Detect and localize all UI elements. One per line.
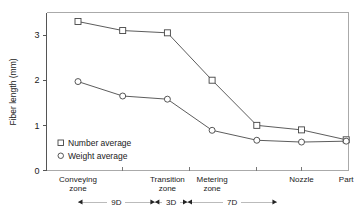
legend-entry-label: Number average [68, 138, 132, 148]
data-point-square [299, 127, 305, 133]
data-point-circle [209, 127, 215, 133]
legend-entry-label: Weight average [68, 151, 128, 161]
x-category-label: zone [69, 184, 87, 193]
span-arrow-head [150, 199, 155, 204]
legend-marker-square [58, 140, 64, 146]
span-arrow-head [183, 199, 188, 204]
span-label: 7D [227, 198, 237, 207]
x-axis-category-labels: ConveyingzoneTransitionzoneMeteringzoneN… [59, 175, 354, 193]
span-arrow-head [272, 199, 277, 204]
series-number-average [75, 19, 349, 143]
data-point-circle [343, 138, 349, 144]
data-point-circle [299, 139, 305, 145]
x-category-label: Nozzle [289, 175, 314, 184]
span-label: 3D [166, 198, 176, 207]
data-point-square [75, 19, 81, 25]
x-axis-ticks [123, 167, 302, 171]
data-point-circle [75, 79, 81, 85]
data-point-square [164, 30, 170, 36]
x-category-label: Part [339, 175, 354, 184]
y-tick-label: 0 [34, 166, 39, 176]
series-weight-average [75, 79, 349, 145]
y-tick-label: 2 [34, 75, 39, 85]
x-category-label: Metering [197, 175, 228, 184]
span-arrow-head [188, 199, 193, 204]
fiber-length-line-chart: 0123 Fiber length (mm) Number averageWei… [0, 0, 362, 215]
data-point-circle [120, 93, 126, 99]
span-label: 9D [111, 198, 121, 207]
zone-span-annotations: 9D3D7D [78, 198, 277, 207]
legend-marker-circle [58, 153, 64, 159]
data-point-square [209, 77, 215, 83]
span-arrow-head [155, 199, 160, 204]
y-axis-title: Fiber length (mm) [8, 58, 18, 125]
data-point-circle [164, 96, 170, 102]
x-category-label: Transition [150, 175, 185, 184]
y-axis-ticks: 0123 [34, 30, 46, 175]
chart-figure: 0123 Fiber length (mm) Number averageWei… [0, 0, 362, 215]
x-category-label: zone [159, 184, 177, 193]
data-point-square [254, 122, 260, 128]
y-axis: 0123 [34, 13, 46, 176]
span-arrow-head [78, 199, 83, 204]
x-category-label: Conveying [59, 175, 97, 184]
x-category-label: zone [203, 184, 221, 193]
chart-legend: Number averageWeight average [58, 138, 132, 161]
data-series-group [75, 19, 349, 146]
y-tick-label: 3 [34, 30, 39, 40]
y-tick-label: 1 [34, 121, 39, 131]
data-point-circle [254, 137, 260, 143]
data-point-square [120, 28, 126, 34]
